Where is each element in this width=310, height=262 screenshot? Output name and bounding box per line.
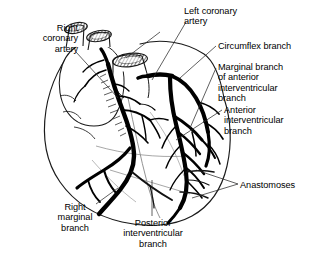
coronary-artery-diagram: Right coronary artery Left coronary arte… [0, 0, 310, 262]
label-right-coronary-artery: Right coronary artery [6, 23, 78, 54]
leader-left-coronary-artery [152, 22, 186, 80]
label-circumflex-branch: Circumflex branch [218, 41, 310, 51]
label-marginal-branch-of-anterior-interventricular-branch: Marginal branch of anterior interventric… [218, 62, 308, 104]
label-anastomoses: Anastomoses [240, 180, 310, 190]
label-posterior-interventricular-branch: Posterior interventricular branch [104, 218, 202, 249]
label-anterior-interventricular-branch: Anterior interventricular branch [224, 105, 310, 136]
label-right-marginal-branch: Right marginal branch [38, 202, 112, 233]
aorta-stump [86, 29, 112, 50]
label-left-coronary-artery: Left coronary artery [184, 6, 274, 27]
